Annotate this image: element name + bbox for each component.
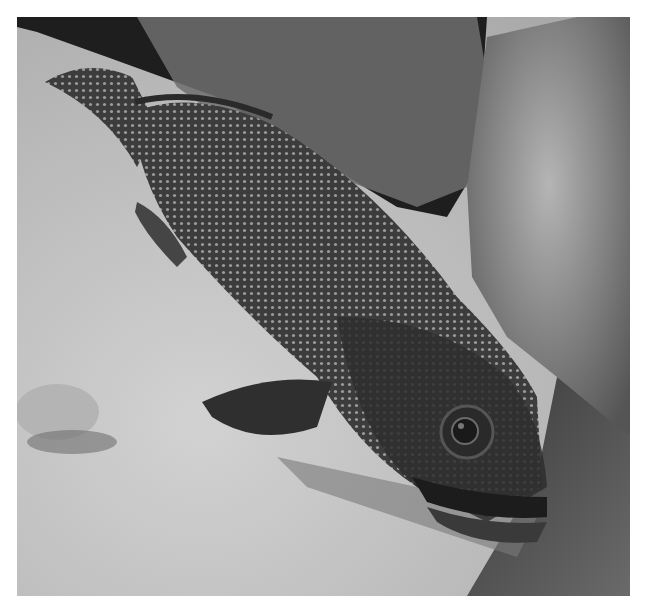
photo-canvas xyxy=(17,17,630,596)
fish-eye-pupil xyxy=(452,418,478,444)
fish-eye-highlight xyxy=(458,423,464,429)
rock-shadow xyxy=(27,430,117,454)
grouper-photograph xyxy=(17,17,630,596)
